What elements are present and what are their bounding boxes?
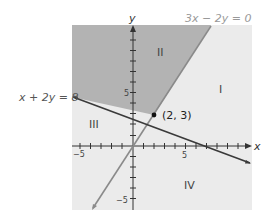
tick-label-y-neg5: −5 — [116, 196, 128, 205]
tick-label-x-5: 5 — [182, 151, 187, 160]
tick-label-x-neg5: −5 — [73, 150, 85, 159]
region-label-II: II — [157, 46, 164, 59]
region-diagram: (2, 3) x + 2y = 8 3x − 2y = 0 y x I II I… — [0, 0, 266, 224]
intersection-label: (2, 3) — [162, 109, 192, 122]
region-label-IV: IV — [184, 179, 195, 192]
tick-label-y-5: 5 — [124, 89, 129, 98]
y-axis-label: y — [128, 12, 136, 25]
line2-label: 3x − 2y = 0 — [185, 12, 251, 25]
region-label-I: I — [219, 83, 222, 96]
line1-label: x + 2y = 8 — [18, 91, 78, 104]
intersection-point — [152, 113, 157, 118]
x-axis-label: x — [253, 140, 261, 153]
region-label-III: III — [89, 118, 99, 131]
